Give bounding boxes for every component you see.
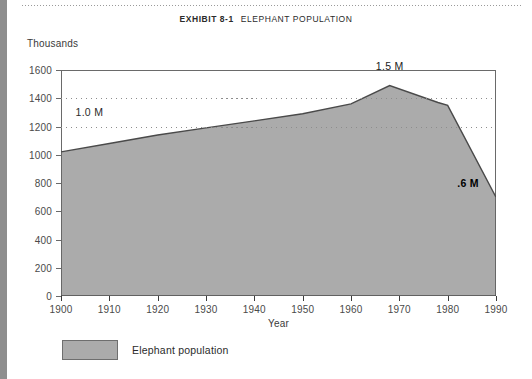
x-tick-label-1940: 1940 xyxy=(243,304,266,315)
y-tick-label-1400: 1400 xyxy=(29,93,52,104)
y-tick-label-1200: 1200 xyxy=(29,121,52,132)
y-tick-400 xyxy=(56,240,61,241)
x-tick-1900 xyxy=(61,296,62,301)
y-tick-label-600: 600 xyxy=(35,206,52,217)
x-tick-1980 xyxy=(448,296,449,301)
gridline-1200 xyxy=(61,127,496,128)
x-tick-1960 xyxy=(351,296,352,301)
y-tick-label-800: 800 xyxy=(35,178,52,189)
x-tick-label-1930: 1930 xyxy=(194,304,217,315)
y-tick-600 xyxy=(56,211,61,212)
page-gutter xyxy=(0,0,7,379)
gridline-1400 xyxy=(61,98,496,99)
x-tick-1990 xyxy=(496,296,497,301)
chart-legend: Elephant population xyxy=(62,340,229,360)
y-tick-label-200: 200 xyxy=(35,262,52,273)
y-tick-label-400: 400 xyxy=(35,234,52,245)
y-tick-1000 xyxy=(56,155,61,156)
y-tick-1600 xyxy=(56,70,61,71)
x-tick-label-1990: 1990 xyxy=(484,304,507,315)
x-tick-1910 xyxy=(109,296,110,301)
x-tick-label-1920: 1920 xyxy=(146,304,169,315)
x-tick-1920 xyxy=(158,296,159,301)
y-tick-label-1000: 1000 xyxy=(29,149,52,160)
legend-swatch-elephant-population xyxy=(62,340,118,360)
x-axis-title: Year xyxy=(61,318,496,329)
annotation-10m: 1.0 M xyxy=(76,106,104,118)
annotation-15m: 1.5 M xyxy=(376,60,404,72)
exhibit-title: ELEPHANT POPULATION xyxy=(241,14,353,24)
exhibit-header: EXHIBIT 8-1ELEPHANT POPULATION xyxy=(0,14,532,24)
x-tick-1940 xyxy=(254,296,255,301)
top-dotted-rule xyxy=(22,5,522,6)
y-tick-1400 xyxy=(56,98,61,99)
exhibit-number: EXHIBIT 8-1 xyxy=(180,14,234,24)
area-series-elephant-population xyxy=(61,70,496,296)
x-tick-label-1950: 1950 xyxy=(291,304,314,315)
x-tick-label-1910: 1910 xyxy=(98,304,121,315)
y-tick-1200 xyxy=(56,127,61,128)
chart-plot-area: 02004006008001000120014001600 1900191019… xyxy=(61,70,496,296)
exhibit-page: EXHIBIT 8-1ELEPHANT POPULATION Thousands… xyxy=(0,0,532,379)
x-tick-label-1960: 1960 xyxy=(339,304,362,315)
x-tick-1950 xyxy=(303,296,304,301)
y-tick-label-0: 0 xyxy=(46,291,52,302)
x-tick-1930 xyxy=(206,296,207,301)
y-tick-800 xyxy=(56,183,61,184)
x-tick-1970 xyxy=(399,296,400,301)
x-tick-label-1970: 1970 xyxy=(388,304,411,315)
annotation-6m: .6 M xyxy=(457,177,479,189)
y-tick-label-1600: 1600 xyxy=(29,65,52,76)
x-tick-label-1980: 1980 xyxy=(436,304,459,315)
y-tick-200 xyxy=(56,268,61,269)
x-tick-label-1900: 1900 xyxy=(49,304,72,315)
y-axis-title: Thousands xyxy=(27,38,78,49)
legend-label-elephant-population: Elephant population xyxy=(132,344,229,356)
